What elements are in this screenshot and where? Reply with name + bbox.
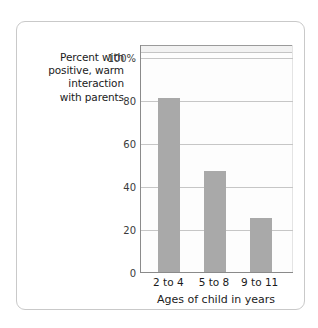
x-axis-title: Ages of child in years (127, 293, 305, 306)
figure-card: Percent with positive, warm interaction … (16, 21, 305, 310)
x-axis-tick-labels: 2 to 45 to 89 to 11 (140, 276, 293, 292)
bar-9-to-11 (250, 218, 272, 272)
y-tick-label-0: 0 (96, 268, 136, 279)
plot-area (140, 45, 293, 273)
y-tick-label-80: 80 (96, 96, 136, 107)
x-tick-label-9-to-11: 9 to 11 (230, 276, 290, 288)
y-tick-label-60: 60 (96, 139, 136, 150)
y-axis-tick-labels: 020406080100% (92, 22, 136, 309)
y-tick-label-100%: 100% (96, 53, 136, 64)
bar-2-to-4 (158, 98, 180, 272)
y-tick-label-40: 40 (96, 182, 136, 193)
y-tick-label-20: 20 (96, 225, 136, 236)
bars-layer (141, 45, 293, 272)
bar-5-to-8 (204, 171, 226, 272)
